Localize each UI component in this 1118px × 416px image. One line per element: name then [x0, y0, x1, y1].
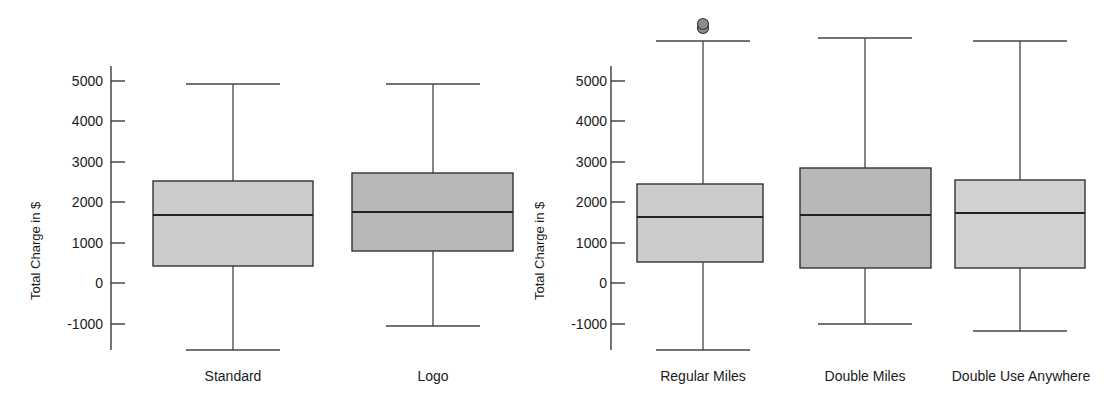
left-boxplot-panel: Total Charge in $ 5000 4000 3000 2000 10… [0, 0, 530, 416]
category-label-logo: Logo [417, 368, 448, 384]
boxplot-standard [153, 84, 313, 350]
right-panel-graphics [500, 0, 1118, 416]
boxplot-double-miles [800, 38, 931, 324]
double-miles-box [800, 168, 931, 268]
boxplot-regular-miles [637, 19, 763, 351]
category-label-standard: Standard [205, 368, 262, 384]
standard-box [153, 181, 313, 266]
left-panel-graphics [0, 0, 530, 416]
regular-miles-box [637, 184, 763, 262]
category-label-double-miles: Double Miles [825, 368, 906, 384]
double-use-box [955, 180, 1085, 268]
boxplot-logo [352, 84, 513, 326]
right-boxplot-panel: Total Charge in $ 5000 4000 3000 2000 10… [500, 0, 1118, 416]
regular-miles-outlier-2 [698, 19, 709, 30]
boxplot-double-use-anywhere [955, 41, 1085, 331]
category-label-regular-miles: Regular Miles [660, 368, 746, 384]
category-label-double-use-anywhere: Double Use Anywhere [952, 368, 1091, 384]
boxplot-figure: Total Charge in $ 5000 4000 3000 2000 10… [0, 0, 1118, 416]
